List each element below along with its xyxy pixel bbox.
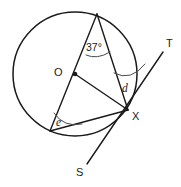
label-angle-d: d: [122, 83, 128, 95]
label-point-x: X: [132, 111, 139, 122]
angle-arc-d: [114, 64, 145, 76]
center-point-dot: [73, 72, 78, 77]
label-point-s: S: [76, 167, 83, 178]
tangent-line-st: [87, 52, 163, 164]
line-top-to-x: [97, 14, 128, 110]
label-point-o: O: [54, 67, 63, 78]
label-angle-e: e: [56, 117, 61, 129]
label-angle-37: 37°: [86, 42, 102, 53]
line-o-to-x: [75, 74, 128, 110]
label-point-t: T: [166, 38, 173, 49]
geometry-diagram: O X T S 37° d e: [0, 0, 181, 187]
geometry-figure-svg: [0, 0, 181, 187]
